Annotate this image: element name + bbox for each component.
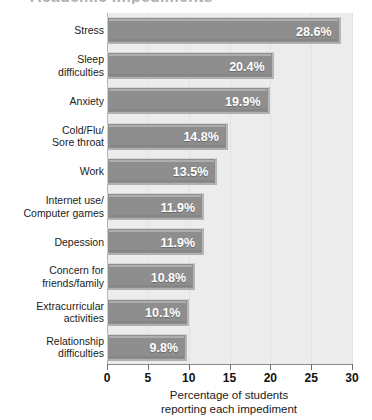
bar-chart: Academic Impediments Stress28.6%Sleep di… [0,0,372,420]
x-tick [352,364,353,370]
bar-container: 20.4% [107,52,274,79]
bar-container: 10.1% [107,299,189,326]
bar: 28.6% [107,17,341,44]
bar-value-label: 9.8% [150,335,179,362]
bar-row: Concern for friends/family10.8% [0,259,372,294]
bar-row: Depession11.9% [0,224,372,259]
bar-value-label: 11.9% [160,194,195,221]
x-tick-label: 25 [296,371,326,385]
category-label: Concern for friends/family [4,259,104,294]
x-tick [230,364,231,370]
x-tick-label: 20 [255,371,285,385]
x-tick [107,364,108,370]
bar-row: Relationship difficulties9.8% [0,330,372,365]
bar: 19.9% [107,87,270,114]
category-label: Anxiety [4,83,104,118]
x-tick-label: 15 [215,371,245,385]
bar-container: 9.8% [107,334,187,361]
bar: 11.9% [107,228,204,255]
bar-container: 13.5% [107,158,217,185]
category-label: Depession [4,224,104,259]
bar-value-label: 28.6% [296,18,331,45]
category-label: Sleep difficulties [4,48,104,83]
bar-value-label: 19.9% [225,88,260,115]
category-label: Relationship difficulties [4,330,104,365]
bar: 10.1% [107,299,189,326]
bar: 14.8% [107,123,228,150]
x-tick [311,364,312,370]
bar-row: Extracurricular activities10.1% [0,295,372,330]
bar-container: 14.8% [107,123,228,150]
bar-row: Sleep difficulties20.4% [0,48,372,83]
bar-container: 11.9% [107,193,204,220]
bar-row: Work13.5% [0,154,372,189]
chart-title: Academic Impediments [30,0,340,4]
category-label: Internet use/ Computer games [4,189,104,224]
x-tick [270,364,271,370]
bar: 9.8% [107,334,187,361]
bar: 20.4% [107,52,274,79]
bar-row: Anxiety19.9% [0,83,372,118]
x-tick-label: 0 [92,371,122,385]
bar-container: 19.9% [107,87,270,114]
bar-container: 11.9% [107,228,204,255]
bar-row: Stress28.6% [0,13,372,48]
bar: 10.8% [107,263,195,290]
bar-container: 10.8% [107,263,195,290]
category-label: Cold/Flu/ Sore throat [4,119,104,154]
category-label: Work [4,154,104,189]
bar-value-label: 10.1% [145,300,180,327]
x-tick-label: 5 [133,371,163,385]
x-tick-label: 30 [337,371,367,385]
bar-value-label: 14.8% [183,124,218,151]
bar: 13.5% [107,158,217,185]
bar-container: 28.6% [107,17,341,44]
x-tick [189,364,190,370]
x-tick-label: 10 [174,371,204,385]
bar: 11.9% [107,193,204,220]
bar-value-label: 11.9% [160,229,195,256]
category-label: Extracurricular activities [4,295,104,330]
bar-row: Cold/Flu/ Sore throat14.8% [0,119,372,154]
bar-value-label: 20.4% [229,53,264,80]
bar-value-label: 13.5% [173,159,208,186]
category-label: Stress [4,13,104,48]
bar-value-label: 10.8% [151,264,186,291]
x-axis-title: Percentage of students reporting each im… [86,388,372,416]
bar-row: Internet use/ Computer games11.9% [0,189,372,224]
x-tick [148,364,149,370]
